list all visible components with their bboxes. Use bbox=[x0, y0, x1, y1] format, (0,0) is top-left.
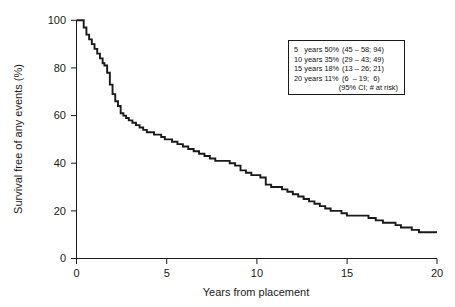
y-tick-label-80: 80 bbox=[54, 62, 66, 74]
y-tick-label-60: 60 bbox=[54, 109, 66, 121]
legend-row: 10 years 35% (29 – 43; 49) bbox=[294, 55, 399, 65]
x-axis-ticks bbox=[77, 259, 438, 265]
legend-row: 15 years 18% (13 – 26; 21) bbox=[294, 64, 399, 74]
x-tick-label-5: 5 bbox=[164, 267, 170, 279]
survival-curve-figure: 0 20 40 60 80 100 0 5 10 15 20 Years fro… bbox=[0, 0, 455, 307]
legend-row: 5 years 50% (45 – 58; 94) bbox=[294, 45, 399, 55]
legend-row-label: 20 years 11% bbox=[294, 74, 342, 84]
x-tick-label-10: 10 bbox=[251, 267, 263, 279]
y-tick-label-40: 40 bbox=[54, 157, 66, 169]
legend-row-ci: (13 – 26; 21) bbox=[342, 64, 384, 74]
legend-row: 20 years 11% (6 – 19; 6) bbox=[294, 74, 399, 84]
legend-row-label: 10 years 35% bbox=[294, 55, 342, 65]
y-axis-title: Survival free of any events (%) bbox=[12, 64, 24, 214]
x-axis-title: Years from placement bbox=[203, 286, 310, 298]
legend-row-label: 15 years 18% bbox=[294, 64, 342, 74]
legend-footer: (95% CI; # at risk) bbox=[294, 83, 399, 93]
y-tick-label-20: 20 bbox=[54, 205, 66, 217]
risk-legend-box: 5 years 50% (45 – 58; 94) 10 years 35% (… bbox=[288, 40, 405, 95]
legend-row-ci: (29 – 43; 49) bbox=[342, 55, 384, 65]
legend-row-ci: (45 – 58; 94) bbox=[342, 45, 384, 55]
x-tick-label-0: 0 bbox=[73, 267, 79, 279]
legend-row-ci: (6 – 19; 6) bbox=[342, 74, 380, 84]
y-tick-label-0: 0 bbox=[60, 252, 66, 264]
y-axis-ticks bbox=[71, 20, 77, 258]
x-tick-label-15: 15 bbox=[341, 267, 353, 279]
y-tick-label-100: 100 bbox=[48, 14, 66, 26]
x-tick-label-20: 20 bbox=[431, 267, 443, 279]
legend-row-label: 5 years 50% bbox=[294, 45, 342, 55]
